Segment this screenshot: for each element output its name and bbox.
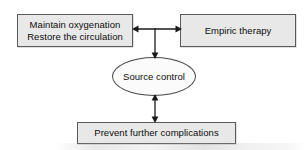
connector-junction-to-source-control-arrow xyxy=(147,27,163,60)
node-maintain-oxygenation: Maintain oxygenation Restore the circula… xyxy=(17,14,133,47)
node-prevent-further-complications: Prevent further complications xyxy=(77,122,236,144)
scan-artifact xyxy=(0,143,306,150)
node-empiric-therapy: Empiric therapy xyxy=(180,14,296,47)
connector-oxygenation-empiric-arrow xyxy=(130,19,184,39)
connector-source-control-prevent-arrow xyxy=(147,93,163,124)
node-source-control: Source control xyxy=(112,57,196,96)
flowchart-figure: Maintain oxygenation Restore the circula… xyxy=(0,0,306,150)
